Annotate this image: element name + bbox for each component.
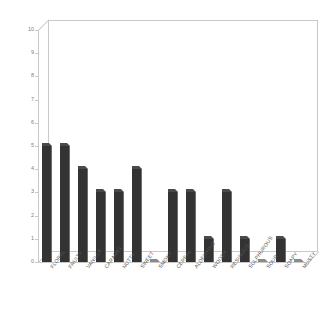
y-axis-tick-label: 8 [14,74,34,80]
y-axis-tick-label: 3 [14,190,34,196]
y-axis-tick-label: 2 [14,213,34,219]
bar-top-face [240,236,250,239]
bar-top-face [132,166,142,169]
bar-top-face [186,189,196,192]
bar-column [132,169,142,262]
bar-top-face [114,189,124,192]
y-axis-tick-label: 10 [14,27,34,33]
y-axis-tick-label: 4 [14,166,34,172]
bar [132,169,142,262]
bar-top-face [78,166,88,169]
y-axis-tick-mark [35,262,38,263]
bar-top-face [60,143,70,146]
y-axis-tick-label: 6 [14,120,34,126]
y-axis-tick-label: 9 [14,50,34,56]
bar [78,169,88,262]
bar-top-face [96,189,106,192]
bar [60,146,70,262]
bar-top-face [276,236,286,239]
bar-chart: 109876543210 FLORALFRUITYVANILLACARAMELN… [0,0,323,328]
bar [42,146,52,262]
y-axis-tick-label: 1 [14,236,34,242]
bar-top-face [204,236,214,239]
bar-top-face [222,189,232,192]
bar-column [78,169,88,262]
y-axis-tick-label: 7 [14,97,34,103]
y-axis-tick-label: 5 [14,143,34,149]
bar-column [42,146,52,262]
bar-top-face [168,189,178,192]
bar-top-face [42,143,52,146]
plot-area [38,30,308,262]
y-axis-tick-label: 0 [14,259,34,265]
bar-column [60,146,70,262]
